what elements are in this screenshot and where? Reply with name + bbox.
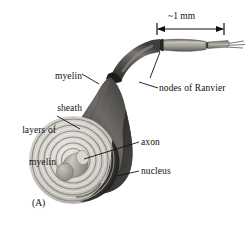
leader-nodes-of-ranvier-near (139, 82, 158, 88)
leader-nodes-of-ranvier-far (150, 52, 160, 78)
label-myelin-sheath-line1: myelin (30, 71, 82, 82)
label-layers-of-myelin: layers of myelin (2, 104, 56, 188)
nucleus-body (57, 163, 74, 181)
distal-fiber-tail (158, 39, 245, 52)
label-nodes-of-ranvier: nodes of Ranvier (159, 83, 226, 94)
leader-myelin-sheath (82, 74, 99, 84)
scale-bar-arrowhead-left (157, 26, 165, 32)
fiber-segment-distal (208, 41, 230, 49)
panel-label: (A) (32, 198, 45, 208)
label-layers-of-myelin-line2: myelin (2, 157, 56, 168)
label-axon: axon (141, 137, 160, 148)
scale-bar-arrowhead-right (216, 26, 224, 32)
label-layers-of-myelin-line1: layers of (2, 125, 56, 136)
label-nucleus: nucleus (141, 166, 171, 177)
fiber-segment-mid (163, 39, 206, 51)
scale-bar (157, 23, 224, 35)
figure-panel-a: myelin sheath layers of myelin nodes of … (0, 0, 249, 227)
fiber-upper-bend (106, 39, 160, 83)
scale-bar-label: ~1 mm (168, 11, 195, 21)
